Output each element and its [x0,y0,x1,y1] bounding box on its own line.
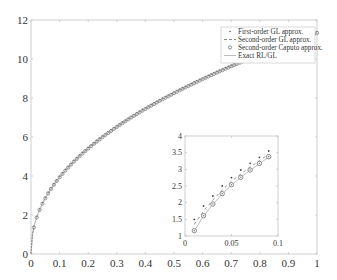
inset-caputo-center [240,177,242,179]
inset-first-order-marker [259,156,261,158]
first-order-marker [90,144,91,145]
first-order-marker [231,65,232,66]
first-order-marker [33,226,34,227]
first-order-marker [68,166,69,167]
y-tick-label: 2.5 [172,182,182,191]
first-order-marker [156,101,157,102]
first-order-marker [213,72,214,73]
first-order-marker [85,149,86,150]
first-order-marker [139,111,140,112]
first-order-marker [185,86,186,87]
x-tick-label: 0.1 [53,257,67,269]
first-order-marker [191,83,192,84]
first-order-marker [88,147,89,148]
y-tick-label: 12 [17,14,28,26]
first-order-marker [113,127,114,128]
first-order-marker [99,138,100,139]
y-tick-label: 2 [23,209,29,221]
x-tick-label: 0.7 [224,257,238,269]
inset-caputo-center [249,169,251,171]
first-order-marker [39,208,40,209]
first-order-marker [151,104,152,105]
inset-first-order-marker [221,185,223,187]
inset-first-order-marker [193,218,195,220]
first-order-marker [79,154,80,155]
first-order-marker [73,160,74,161]
first-order-marker [216,71,217,72]
first-order-marker [96,140,97,141]
y-tick-label: 0 [23,248,29,260]
inset-caputo-center [231,184,233,186]
first-order-marker [145,107,146,108]
first-order-marker [199,79,200,80]
first-order-marker [159,99,160,100]
first-order-marker [148,105,149,106]
first-order-marker [128,118,129,119]
y-tick-label: 2 [178,198,182,207]
first-order-marker [108,131,109,132]
first-order-marker [70,163,71,164]
x-tick-label: 0.05 [225,239,239,248]
x-tick-label: 0.5 [167,257,181,269]
first-order-marker [93,142,94,143]
first-order-marker [110,129,111,130]
first-order-marker [62,172,63,173]
y-tick-label: 6 [23,131,29,143]
inset-caputo-center [203,215,205,217]
legend-label: Exact RL/GL [238,52,277,60]
inset-first-order-marker [268,150,270,152]
first-order-marker [142,109,143,110]
inset-first-order-marker [240,169,242,171]
first-order-marker [119,123,120,124]
first-order-marker [50,187,51,188]
first-order-marker [316,31,317,32]
x-tick-label: 0.1 [273,239,283,248]
first-order-marker [136,112,137,113]
first-order-marker [45,196,46,197]
inset-first-order-marker [203,205,205,207]
inset-caputo-center [221,193,223,195]
first-order-marker [233,63,234,64]
first-order-marker [131,116,132,117]
first-order-marker [65,169,66,170]
inset-chart: 00.050.111.522.533.54 [172,132,283,248]
first-order-marker [225,67,226,68]
legend-label: Second-order GL approx. [238,36,312,44]
first-order-marker [36,216,37,217]
y-tick-label: 1.5 [172,215,182,224]
legend: First-order GL approx.Second-order GL ap… [221,27,323,63]
first-order-marker [116,125,117,126]
first-order-marker [176,90,177,91]
first-order-marker [193,81,194,82]
first-order-marker [228,66,229,67]
x-tick-label: 0.2 [81,257,95,269]
first-order-marker [165,96,166,97]
inset-caputo-center [268,156,270,158]
first-order-marker [211,73,212,74]
legend-label: First-order GL approx. [238,28,304,36]
first-order-marker [76,157,77,158]
inset-first-order-marker [249,162,251,164]
first-order-marker [48,192,49,193]
first-order-marker [182,87,183,88]
inset-caputo-center [194,230,196,232]
first-order-marker [102,135,103,136]
x-tick-label: 0.8 [253,257,267,269]
first-order-marker [82,152,83,153]
y-tick-label: 3.5 [172,148,182,157]
legend-dot-icon [229,31,231,33]
inset-first-order-marker [231,177,233,179]
x-tick-label: 0.6 [196,257,210,269]
first-order-marker [222,68,223,69]
first-order-marker [133,114,134,115]
x-tick-label: 0.9 [282,257,296,269]
first-order-marker [53,183,54,184]
y-tick-label: 1 [178,232,182,241]
chart: 00.10.20.30.40.50.60.70.80.91024681012 F… [0,0,337,280]
first-order-marker [168,94,169,95]
first-order-marker [208,75,209,76]
y-tick-label: 4 [178,132,182,141]
x-tick-label: 0.4 [139,257,153,269]
first-order-marker [188,84,189,85]
inset-caputo-center [212,203,214,205]
